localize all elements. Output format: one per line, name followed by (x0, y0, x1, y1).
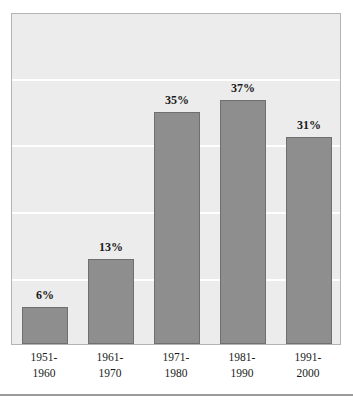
bars-layer: 6% 13% 35% 37% 31% (12, 14, 340, 344)
bar-1981-1990[interactable] (220, 100, 266, 344)
bar-slot-1951-1960: 6% (12, 14, 78, 344)
bar-1961-1970[interactable] (88, 259, 134, 344)
category-label-line2: 1990 (209, 365, 275, 381)
bar-1991-2000[interactable] (286, 137, 332, 344)
category-label-1971-1980: 1971- 1980 (143, 349, 209, 381)
bar-value-1961-1970: 13% (99, 240, 123, 255)
bar-1971-1980[interactable] (154, 112, 200, 344)
category-label-line1: 1981- (229, 351, 256, 363)
category-label-line1: 1991- (295, 351, 322, 363)
category-label-line1: 1951- (31, 351, 58, 363)
bar-slot-1991-2000: 31% (276, 14, 341, 344)
category-label-line1: 1961- (97, 351, 124, 363)
category-label-line2: 1980 (143, 365, 209, 381)
category-label-line1: 1971- (163, 351, 190, 363)
category-label-1951-1960: 1951- 1960 (11, 349, 77, 381)
category-label-line2: 1970 (77, 365, 143, 381)
bar-slot-1981-1990: 37% (210, 14, 276, 344)
category-label-line2: 1960 (11, 365, 77, 381)
category-label-line2: 2000 (275, 365, 341, 381)
category-label-1981-1990: 1981- 1990 (209, 349, 275, 381)
bar-1951-1960[interactable] (22, 307, 68, 344)
bar-value-1951-1960: 6% (36, 288, 54, 303)
category-label-1961-1970: 1961- 1970 (77, 349, 143, 381)
category-label-1991-2000: 1991- 2000 (275, 349, 341, 381)
bar-slot-1971-1980: 35% (144, 14, 210, 344)
bar-chart-figure: 6% 13% 35% 37% 31% 1951- 1960 (0, 0, 353, 405)
plot-area: 6% 13% 35% 37% 31% (11, 13, 341, 345)
bar-value-1991-2000: 31% (297, 118, 321, 133)
bottom-divider (0, 394, 353, 396)
bar-slot-1961-1970: 13% (78, 14, 144, 344)
bar-value-1981-1990: 37% (231, 81, 255, 96)
category-axis: 1951- 1960 1961- 1970 1971- 1980 1981- 1… (11, 349, 341, 389)
bar-value-1971-1980: 35% (165, 93, 189, 108)
